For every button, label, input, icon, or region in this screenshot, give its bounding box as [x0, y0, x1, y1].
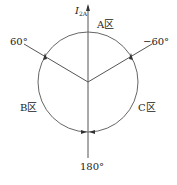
ray-60 [24, 44, 88, 82]
phase-region-diagram: I2A A区 B区 C区 60° −60° 180° [0, 0, 177, 185]
axis-label: I2A [74, 5, 88, 17]
angle-60-label: 60° [10, 36, 28, 47]
ray-minus-60 [88, 44, 152, 82]
region-c-label: C区 [138, 102, 156, 113]
arc-arrow-bottom-left-icon [81, 130, 87, 134]
region-b-label: B区 [20, 102, 37, 113]
angle-180-label: 180° [80, 161, 104, 172]
region-a-label: A区 [96, 19, 114, 30]
angle-minus-60-label: −60° [143, 36, 169, 47]
arc-arrow-bottom-right-icon [89, 130, 95, 134]
